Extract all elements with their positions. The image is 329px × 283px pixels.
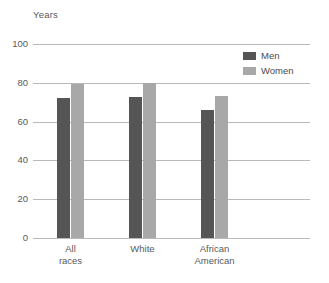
legend-label-women: Women [261,65,294,76]
chart-legend: Men Women [243,48,294,78]
y-axis-tick-label: 80 [17,78,28,88]
y-axis-tick-label: 0 [23,233,28,243]
x-axis-category-label: African American [175,243,255,266]
y-axis-tick-label: 20 [17,194,28,204]
x-axis-category-label: All races [31,243,111,266]
legend-label-men: Men [261,50,279,61]
bar-group [201,44,228,238]
legend-swatch-women-icon [243,67,256,75]
x-axis-category-label: White [103,243,183,255]
bar-men-2 [201,110,214,238]
legend-item-men: Men [243,48,294,63]
y-axis-title: Years [33,9,58,20]
bar-chart: Years 100806040200 Men Women All racesWh… [0,0,329,283]
y-axis-tick-label: 60 [17,117,28,127]
legend-swatch-men-icon [243,52,256,60]
bar-men-0 [57,98,70,238]
bar-group [129,44,156,238]
legend-item-women: Women [243,63,294,78]
bar-women-1 [143,83,156,238]
bar-group [57,44,84,238]
y-axis-tick-label: 40 [17,156,28,166]
bar-men-1 [129,97,142,238]
bar-women-2 [215,96,228,238]
gridline: 0 [33,238,310,239]
bar-women-0 [71,84,84,238]
y-axis-tick-label: 100 [12,39,28,49]
